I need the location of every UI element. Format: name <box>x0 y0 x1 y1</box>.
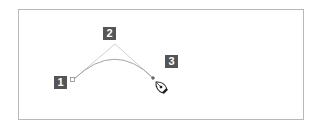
callout-badge-2: 2 <box>103 27 116 40</box>
curve-segment <box>74 59 153 79</box>
callout-badge-3: 3 <box>165 55 178 68</box>
direction-handle-lines <box>74 44 153 79</box>
pen-tool-cursor-icon <box>153 79 169 95</box>
anchor-point-icon <box>71 78 75 82</box>
callout-badge-1: 1 <box>54 76 67 89</box>
path-illustration <box>0 0 319 128</box>
